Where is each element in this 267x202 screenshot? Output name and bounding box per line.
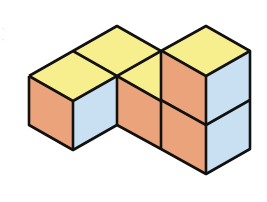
cube-diagram: ·· [0,0,267,202]
scan-artifact-dots: ·· [2,24,5,46]
isometric-cubes-figure [0,0,267,202]
